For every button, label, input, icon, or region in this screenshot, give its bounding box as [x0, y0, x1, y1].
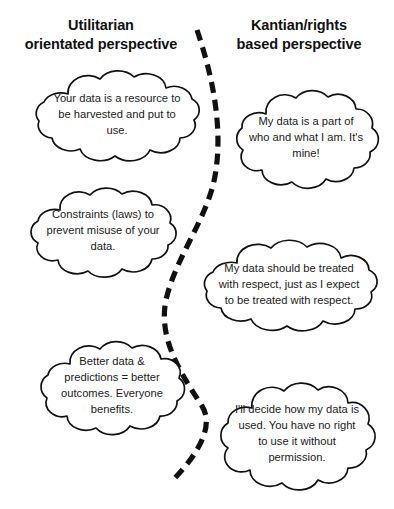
heading-left-line1: Utilitarian: [8, 16, 194, 35]
thought-cloud-left-1: Your data is a resource to be harvested …: [22, 66, 212, 164]
thought-cloud-right-3: I'll decide how my data is used. You hav…: [208, 376, 386, 492]
thought-cloud-left-3: Better data & predictions = better outco…: [28, 336, 196, 436]
thought-cloud-right-1: My data is a part of who and what I am. …: [226, 84, 386, 192]
cloud-right-1-text: My data is a part of who and what I am. …: [226, 84, 386, 192]
thought-cloud-left-2: Constraints (laws) to prevent misuse of …: [18, 183, 188, 279]
cloud-left-1-text: Your data is a resource to be harvested …: [22, 66, 212, 164]
diagram-canvas: Utilitarian orientated perspective Kanti…: [0, 0, 394, 509]
column-heading-utilitarian: Utilitarian orientated perspective: [8, 16, 194, 54]
cloud-left-2-text: Constraints (laws) to prevent misuse of …: [18, 183, 188, 279]
cloud-left-3-text: Better data & predictions = better outco…: [28, 336, 196, 436]
heading-left-line2: orientated perspective: [8, 35, 194, 54]
heading-right-line1: Kantian/rights: [208, 16, 390, 35]
thought-cloud-right-2: My data should be treated with respect, …: [189, 236, 389, 334]
cloud-right-3-text: I'll decide how my data is used. You hav…: [208, 376, 386, 492]
heading-right-line2: based perspective: [208, 35, 390, 54]
column-heading-kantian: Kantian/rights based perspective: [208, 16, 390, 54]
cloud-right-2-text: My data should be treated with respect, …: [189, 236, 389, 334]
